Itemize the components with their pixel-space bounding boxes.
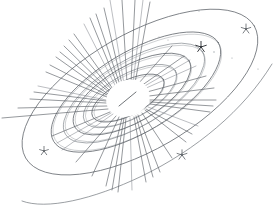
- speck-3: [257, 68, 258, 69]
- star-upper-right-hub: [245, 28, 246, 29]
- speck-0: [213, 51, 214, 52]
- speck-4: [168, 40, 169, 41]
- speck-1: [198, 10, 199, 11]
- star-ring-east-hub: [200, 46, 202, 48]
- star-nebula-sketch: [0, 0, 277, 219]
- star-lower-left-hub: [43, 150, 44, 151]
- speck-5: [159, 37, 160, 38]
- star-lower-center-hub: [181, 154, 182, 155]
- speck-2: [231, 57, 232, 58]
- sketch-figure: [0, 0, 277, 219]
